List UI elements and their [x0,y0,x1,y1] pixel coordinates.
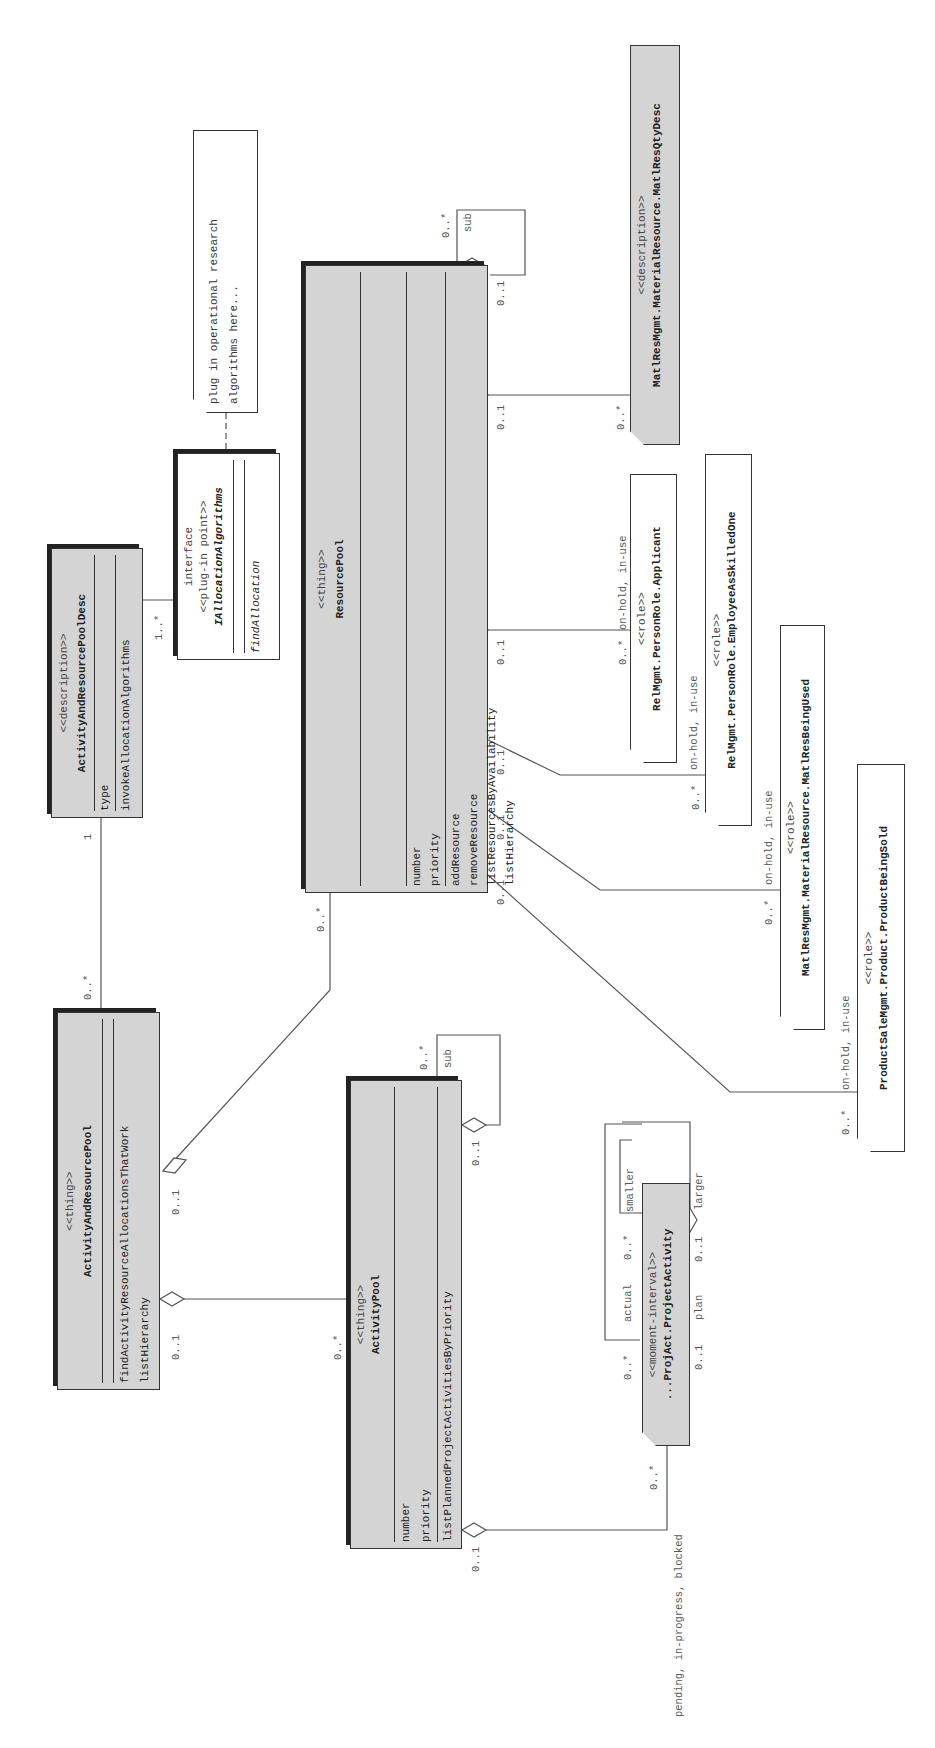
class-name: ...ProjAct.ProjectActivity [662,1184,674,1445]
attribute: priority [426,272,444,886]
stereotype: <<thing>> [355,1081,367,1548]
multiplicity-label: 0..1 [495,880,507,905]
class-name: ResourcePool [334,266,346,892]
multiplicity-label: 0..* [440,213,452,238]
divider [102,1019,103,1383]
multiplicity-label: 0..1 [495,750,507,775]
role-label: sub [442,1049,454,1068]
note-plug-in-algorithms: plug in operational research algorithms … [193,130,258,413]
multiplicity-label: 0..1 [170,1190,182,1215]
note-text-line: plug in operational research [204,139,224,404]
state-label: on-hold, in-use [840,995,852,1090]
role-label: actual [622,1284,634,1322]
multiplicity-label: 1 [82,834,94,840]
stereotype: <<role>> [711,455,723,825]
operation: removeResource [465,272,483,886]
divider [360,272,361,886]
class-name: RelMgmt.PersonRole.EmployeeAsSkilledOne [726,455,738,825]
class-project-activity[interactable]: <<moment-interval>> ...ProjAct.ProjectAc… [642,1183,690,1446]
stereotype: <<role>> [636,475,648,762]
operation: listPlannedProjectActivitiesByPriority [439,1087,457,1542]
class-name: MatlResMgmt.MaterialResource.MatlResQtyD… [651,46,663,444]
multiplicity-label: 0..1 [495,281,507,306]
class-applicant[interactable]: <<role>> RelMgmt.PersonRole.Applicant [630,474,677,763]
multiplicity-label: 0..* [617,640,629,665]
class-matl-res-qty-desc[interactable]: <<description>> MatlResMgmt.MaterialReso… [630,45,680,445]
class-activity-pool[interactable]: <<thing>> ActivityPool number priority l… [350,1080,462,1549]
stereotype: <<thing>> [316,266,328,892]
multiplicity-label: 1..* [153,615,165,640]
state-label: pending, in-progress, blocked [673,1534,685,1717]
stereotype: <<role>> [785,626,797,1029]
operation: invokeAllocationAlgorithms [117,555,135,811]
class-activity-and-resource-pool-desc[interactable]: <<description>> ActivityAndResourcePoolD… [51,548,143,818]
operation: findAllocation [247,460,265,653]
role-label: sub [462,213,474,232]
multiplicity-label: 0..* [840,1110,852,1135]
multiplicity-label: 0..* [332,1335,344,1360]
attribute: priority [416,1087,436,1542]
multiplicity-label: 0..* [315,907,327,932]
multiplicity-label: 0..1 [470,1141,482,1166]
role-label: smaller [624,1168,636,1212]
class-name: ActivityPool [370,1081,382,1548]
multiplicity-label: 0..1 [170,1335,182,1360]
multiplicity-label: 0..* [615,405,627,430]
multiplicity-label: 0..* [690,785,702,810]
interface-i-allocation-algorithms[interactable]: interface <<plug-in point>> IAllocationA… [177,453,280,660]
stereotype: <<thing>> [64,1013,76,1389]
uml-class-diagram: <<thing>> ActivityAndResourcePool findAc… [0,0,935,1748]
operation: listResourcesByAvailability [483,272,501,886]
multiplicity-label: 0..* [763,900,775,925]
multiplicity-label: 0..1 [693,1345,705,1370]
stereotype: <<role>> [863,765,875,1151]
interface-keyword: interface [183,454,195,659]
multiplicity-label: 0..* [82,975,94,1000]
role-label: plan [693,1295,705,1320]
operation: findActivityResourceAllocationsThatWork [115,1019,135,1383]
multiplicity-label: 0..* [622,1355,634,1380]
divider [233,460,234,653]
class-name: ActivityAndResourcePool [82,1013,94,1389]
multiplicity-label: 0..1 [470,1547,482,1572]
state-label: on-hold, in-use [763,790,775,885]
operation: addResource [447,272,465,886]
class-resource-pool[interactable]: <<thing>> ResourcePool number priority a… [305,265,488,893]
class-matl-res-being-used[interactable]: <<role>> MatlResMgmt.MaterialResource.Ma… [780,625,825,1030]
multiplicity-label: 0..1 [495,405,507,430]
class-name: RelMgmt.PersonRole.Applicant [651,475,663,762]
class-name: MatlResMgmt.MaterialResource.MatlResBein… [800,626,812,1029]
multiplicity-label: 0..1 [495,640,507,665]
class-name: ProductSaleMgmt.Product.ProductBeingSold [878,765,890,1151]
class-product-being-sold[interactable]: <<role>> ProductSaleMgmt.Product.Product… [857,764,905,1152]
attribute: type [96,555,114,811]
class-employee-as-skilled-one[interactable]: <<role>> RelMgmt.PersonRole.EmployeeAsSk… [705,454,752,826]
class-activity-and-resource-pool[interactable]: <<thing>> ActivityAndResourcePool findAc… [57,1012,160,1390]
stereotype: <<plug-in point>> [198,454,210,659]
stereotype: <<description>> [636,46,648,444]
stereotype: <<moment-interval>> [647,1184,659,1445]
role-label: larger [693,1172,705,1210]
attribute: number [396,1087,416,1542]
stereotype: <<description>> [58,549,70,817]
state-label: on-hold, in-use [617,535,629,630]
multiplicity-label: 0..1 [495,815,507,840]
class-name: ActivityAndResourcePoolDesc [76,549,88,817]
note-text-line: algorithms here... [224,139,244,404]
operation: listHierarchy [135,1019,155,1383]
attribute: number [408,272,426,886]
multiplicity-label: 0..1 [693,1237,705,1262]
multiplicity-label: 0..* [622,1235,634,1260]
state-label: on-hold, in-use [688,675,700,770]
operation: listHierarchy [501,272,519,886]
multiplicity-label: 0..* [648,1465,660,1490]
multiplicity-label: 0..* [418,1045,430,1070]
interface-name: IAllocationAlgorithms [213,454,225,659]
